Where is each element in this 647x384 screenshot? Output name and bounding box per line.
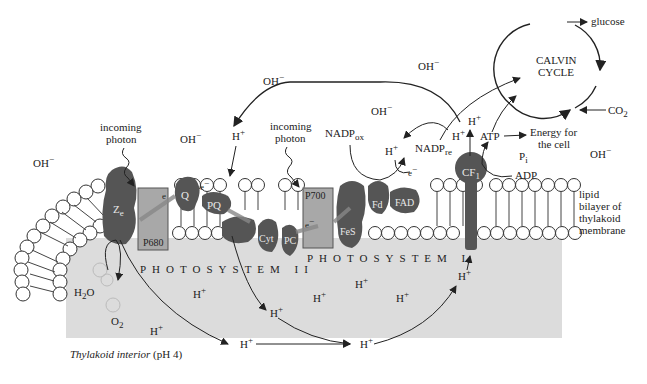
label-p680: P680 bbox=[143, 237, 164, 248]
label-pc: PC bbox=[284, 235, 297, 246]
svg-text:H+: H+ bbox=[468, 112, 481, 127]
svg-text:photon: photon bbox=[275, 132, 306, 144]
svg-text:CALVIN: CALVIN bbox=[536, 54, 577, 66]
svg-text:H+: H+ bbox=[232, 127, 245, 142]
cf0-stalk bbox=[465, 178, 477, 250]
co2-label: CO2 bbox=[608, 104, 628, 119]
label-q: Q bbox=[181, 189, 189, 201]
label-p700: P700 bbox=[305, 190, 326, 201]
label-pq: PQ bbox=[207, 199, 221, 211]
svg-text:OH−: OH− bbox=[371, 102, 392, 117]
label-fad: FAD bbox=[395, 197, 414, 208]
svg-text:incoming: incoming bbox=[100, 121, 142, 133]
photosystem-ii-label: PHOTOSYSTEM II bbox=[140, 263, 314, 275]
svg-text:photon: photon bbox=[106, 133, 137, 145]
calvin-cycle: CALVIN CYCLE glucose CO2 bbox=[494, 15, 628, 119]
svg-text:OH−: OH− bbox=[418, 57, 439, 72]
svg-text:e: e bbox=[162, 191, 166, 201]
protein-cytb bbox=[222, 216, 256, 243]
svg-text:H+: H+ bbox=[385, 142, 398, 157]
svg-text:OH−: OH− bbox=[180, 130, 201, 145]
label-fes: FeS bbox=[340, 226, 356, 237]
svg-text:H+: H+ bbox=[360, 335, 373, 350]
svg-text:bilayer of: bilayer of bbox=[579, 200, 622, 212]
svg-text:lipid: lipid bbox=[579, 188, 600, 200]
svg-text:incoming: incoming bbox=[270, 120, 312, 132]
svg-text:the cell: the cell bbox=[538, 138, 570, 150]
photosynthesis-diagram: Ze P680 Q PQ Cyt PC P700 FeS Fd FAD CF1 … bbox=[0, 0, 647, 384]
svg-text:CYCLE: CYCLE bbox=[538, 66, 574, 78]
nadp-ox-label: NADPox bbox=[325, 127, 364, 142]
svg-text:membrane: membrane bbox=[579, 224, 626, 236]
svg-text:H+: H+ bbox=[240, 335, 253, 350]
incoming-photon-2: incoming photon bbox=[270, 120, 312, 187]
pi-label: Pi bbox=[519, 150, 528, 165]
membrane-label: lipid bilayer of thylakoid membrane bbox=[579, 188, 626, 236]
svg-text:OH−: OH− bbox=[263, 72, 284, 87]
svg-text:thylakoid: thylakoid bbox=[579, 212, 621, 224]
atp-label: ATP bbox=[480, 130, 500, 142]
svg-text:OH−: OH− bbox=[33, 154, 54, 169]
label-fd: Fd bbox=[372, 199, 383, 210]
label-cyt: Cyt bbox=[259, 233, 274, 244]
svg-text:e−: e− bbox=[408, 164, 417, 178]
thylakoid-interior-label: Thylakoid interior (pH 4) bbox=[70, 348, 182, 361]
energy-label: Energy for bbox=[530, 126, 577, 138]
svg-text:OH−: OH− bbox=[590, 145, 611, 160]
photosystem-i-label: PHOTOSYSTEM I bbox=[307, 252, 471, 264]
adp-label: ADP bbox=[515, 169, 537, 181]
glucose-label: glucose bbox=[591, 15, 625, 27]
svg-text:H+: H+ bbox=[452, 127, 465, 142]
nadp-re-label: NADPre bbox=[415, 142, 452, 157]
